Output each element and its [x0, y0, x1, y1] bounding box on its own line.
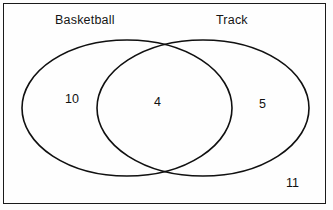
set-label-basketball: Basketball	[55, 13, 115, 27]
count-outside-both: 11	[286, 176, 299, 190]
venn-circles-graphic	[0, 0, 333, 210]
count-intersection: 4	[154, 95, 161, 109]
venn-diagram-figure: Basketball Track 10 4 5 11	[0, 0, 333, 210]
set-label-track: Track	[216, 13, 248, 27]
count-track-only: 5	[259, 97, 266, 111]
count-basketball-only: 10	[65, 92, 79, 106]
